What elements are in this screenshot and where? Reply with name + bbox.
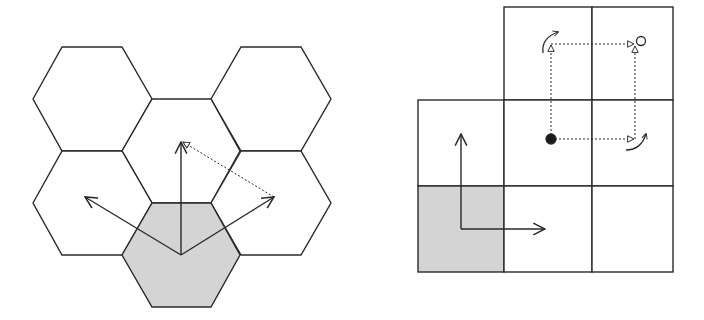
grid-cell-r0c2: [592, 7, 673, 100]
hex-grid-panel: [33, 47, 331, 307]
figure: [0, 0, 704, 320]
grid-cell-r2c2: [592, 186, 673, 272]
start-dot-icon: [546, 134, 556, 144]
grid-cell-r0c1: [504, 7, 592, 100]
grid-cell-r1c2: [592, 100, 673, 186]
goal-circle-icon: [637, 37, 646, 46]
